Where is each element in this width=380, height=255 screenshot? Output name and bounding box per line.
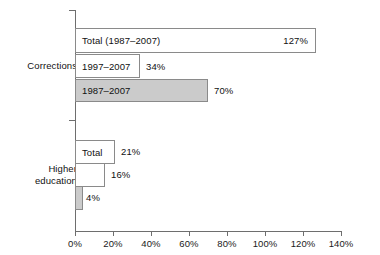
bar-label-corrections-1997-2007: 1997–2007 bbox=[76, 61, 130, 72]
x-axis-tick-40 bbox=[151, 231, 152, 236]
x-axis-tick-100 bbox=[265, 231, 266, 236]
x-axis-tick-140 bbox=[341, 231, 342, 236]
x-axis-label-100: 100% bbox=[253, 238, 278, 249]
bar-value-corrections-1997-2007: 34% bbox=[146, 61, 165, 72]
y-axis-tick-group-separator bbox=[69, 120, 75, 121]
y-axis-tick-top bbox=[69, 10, 75, 11]
bar-corrections-1997-2007[interactable]: 1997–2007 bbox=[75, 54, 140, 78]
bar-higher-education-second[interactable] bbox=[75, 163, 105, 187]
bar-value-corrections-1987-2007: 70% bbox=[214, 85, 233, 96]
x-axis-label-140: 140% bbox=[329, 238, 354, 249]
category-label-corrections: Corrections bbox=[27, 60, 77, 72]
bar-higher-education-third[interactable] bbox=[75, 186, 83, 210]
bar-value-higher-education-third: 4% bbox=[86, 192, 100, 203]
x-axis-tick-120 bbox=[303, 231, 304, 236]
x-axis-tick-80 bbox=[227, 231, 228, 236]
bar-label-corrections-total: Total (1987–2007) bbox=[76, 35, 160, 46]
x-axis-label-120: 120% bbox=[291, 238, 316, 249]
x-axis-tick-60 bbox=[189, 231, 190, 236]
x-axis-label-20: 20% bbox=[103, 238, 122, 249]
bar-value-higher-education-total: 21% bbox=[121, 146, 140, 157]
bar-value-higher-education-second: 16% bbox=[111, 169, 130, 180]
bar-label-corrections-1987-2007: 1987–2007 bbox=[76, 85, 130, 96]
x-axis-tick-0 bbox=[75, 231, 76, 236]
x-axis-label-40: 40% bbox=[141, 238, 160, 249]
bar-higher-education-total[interactable]: Total bbox=[75, 140, 115, 164]
x-axis-label-0: 0% bbox=[68, 238, 82, 249]
x-axis-label-60: 60% bbox=[179, 238, 198, 249]
bar-label-higher-education-total: Total bbox=[76, 147, 103, 158]
x-axis-tick-20 bbox=[113, 231, 114, 236]
x-axis-label-80: 80% bbox=[217, 238, 236, 249]
x-axis-line bbox=[75, 231, 341, 232]
category-label-higher-education: Higher education bbox=[35, 163, 77, 186]
bar-corrections-total[interactable]: Total (1987–2007) 127% bbox=[75, 28, 316, 53]
bar-value-corrections-total: 127% bbox=[283, 35, 315, 46]
bar-corrections-1987-2007[interactable]: 1987–2007 bbox=[75, 79, 208, 102]
bar-chart: 0% 20% 40% 60% 80% 100% 120% 140% Correc… bbox=[0, 0, 380, 255]
